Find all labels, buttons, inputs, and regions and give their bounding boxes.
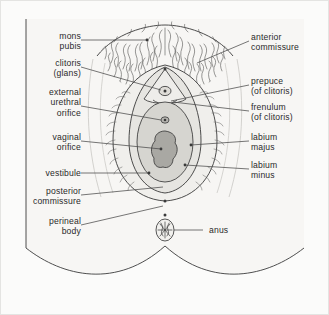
label-perineal-body: perineal body — [19, 216, 81, 237]
external-urethral-orifice-group — [161, 117, 169, 123]
label-frenulum-of-clitoris: frenulum (of clitoris) — [251, 102, 325, 123]
label-mons-pubis: mons pubis — [19, 31, 81, 52]
label-posterior-commissure: posterior commissure — [9, 186, 81, 207]
label-labium-minus: labium minus — [251, 160, 325, 181]
perineal-body-point — [164, 214, 167, 217]
label-vaginal-orifice: vaginal orifice — [19, 132, 81, 153]
label-prepuce-of-clitoris: prepuce (of clitoris) — [251, 76, 325, 97]
label-clitoris-glans: clitoris (glans) — [19, 58, 81, 79]
anus-group — [156, 219, 174, 241]
urethral-orifice-center-dot — [164, 119, 167, 122]
label-anterior-commissure: anterior commissure — [251, 32, 325, 53]
posterior-commissure-point — [164, 200, 167, 203]
label-labium-majus: labium majus — [251, 132, 325, 153]
anatomical-figure: mons pubis clitoris (glans) external ure… — [0, 0, 329, 315]
anterior-commissure-point — [164, 68, 167, 71]
label-vestibule: vestibule — [11, 168, 81, 178]
clitoris-glans-center-dot — [164, 90, 167, 93]
label-external-urethral-orifice: external urethral orifice — [15, 87, 81, 118]
anus-radial-folds — [158, 222, 172, 238]
label-anus: anus — [209, 225, 269, 235]
